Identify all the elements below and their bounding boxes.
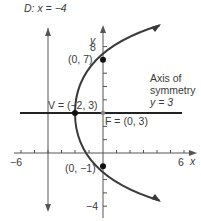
axis-of-symmetry-label-2: symmetry (150, 84, 196, 96)
axis-of-symmetry-label-3: y = 3 (149, 96, 173, 108)
point-0-7 (100, 57, 106, 63)
vertex-label: V = (−2, 3) (48, 99, 98, 111)
focus-label: F = (0, 3) (105, 115, 148, 127)
parabola-diagram: D: x = −4 y x 8 −4 −6 6 (0, 7) (0, −1) V… (0, 0, 201, 221)
point-0-7-label: (0, 7) (68, 53, 93, 65)
directrix-label: D: x = −4 (24, 2, 67, 14)
x-tick-neg6: −6 (10, 156, 22, 168)
curve-arrow-bottom (151, 194, 161, 202)
y-tick-8: 8 (90, 41, 96, 53)
y-tick-neg4: −4 (86, 200, 98, 212)
point-0-neg1 (100, 163, 106, 169)
x-axis-label: x (189, 155, 196, 167)
x-tick-6: 6 (178, 156, 184, 168)
directrix-line (45, 28, 51, 212)
point-0-neg1-label: (0, −1) (65, 162, 96, 174)
axis-of-symmetry-label-1: Axis of (150, 72, 182, 84)
curve-arrow-top (151, 24, 161, 32)
x-axis (14, 150, 197, 156)
